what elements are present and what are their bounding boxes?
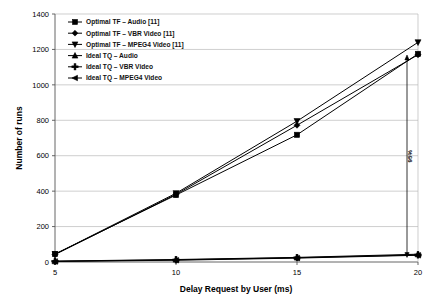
y-tick-label-200: 200 (36, 222, 49, 231)
y-axis-title: Number of runs (14, 106, 24, 170)
y-tick-label-1000: 1000 (32, 81, 49, 90)
y-tick-label-1200: 1200 (32, 45, 49, 54)
x-tick-label-20: 20 (414, 268, 422, 277)
x-axis-title: Delay Request by User (ms) (180, 284, 293, 294)
legend-label-5: Ideal TQ – MPEG4 Video (86, 74, 162, 82)
line-chart: 0200400600800100012001400 5101520 Number… (0, 0, 447, 304)
legend-label-4: Ideal TQ – VBR Video (86, 63, 153, 71)
x-tick-label-5: 5 (53, 268, 57, 277)
annotation-label: 95% (406, 150, 413, 163)
legend-label-1: Optimal TF – VBR Video [11] (86, 30, 175, 38)
square-marker-icon (73, 20, 78, 25)
square (294, 132, 299, 137)
x-tick-label-10: 10 (172, 268, 180, 277)
y-tick-label-0: 0 (45, 258, 49, 267)
y-tick-label-400: 400 (36, 187, 49, 196)
y-tick-label-1400: 1400 (32, 10, 49, 19)
legend-item-2[interactable]: Optimal TF – MPEG4 Video [11] (68, 41, 184, 49)
y-tick-label-800: 800 (36, 116, 49, 125)
y-tick-label-600: 600 (36, 151, 49, 160)
plus-bar-v (74, 64, 76, 70)
x-tick-label-15: 15 (293, 268, 301, 277)
legend-label-2: Optimal TF – MPEG4 Video [11] (86, 41, 184, 49)
legend-label-0: Optimal TF – Audio [11] (86, 18, 159, 26)
chart-container: 0200400600800100012001400 5101520 Number… (0, 0, 447, 304)
legend-label-3: Ideal TQ – Audio (86, 52, 138, 60)
